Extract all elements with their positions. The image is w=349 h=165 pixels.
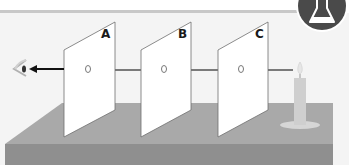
panel-a-label: A <box>101 27 110 41</box>
panel-b-label: B <box>178 27 187 41</box>
header-rule <box>0 10 310 13</box>
diagram-canvas <box>0 0 349 165</box>
table-front <box>5 144 333 165</box>
pinhole-experiment-diagram: A B C <box>0 0 349 165</box>
panel-c-label: C <box>255 27 264 41</box>
